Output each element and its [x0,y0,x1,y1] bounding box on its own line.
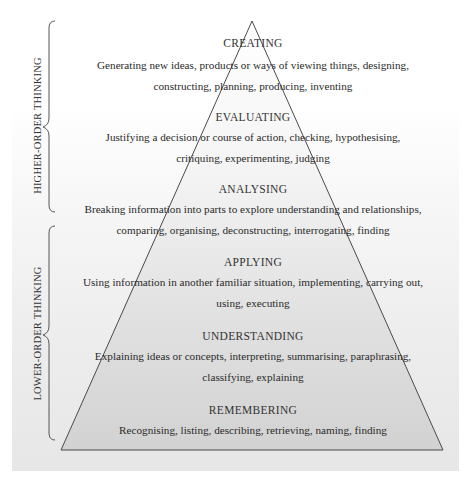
higher-order-brace-icon [43,21,55,212]
level-title: CREATING [60,36,446,50]
level-description: Breaking information into parts to explo… [60,199,446,240]
bloom-taxonomy-diagram: HIGHER-ORDER THINKING LOWER-ORDER THINKI… [0,0,470,488]
description-line: comparing, organising, deconstructing, i… [60,220,446,241]
level-analysing: ANALYSING Breaking information into part… [60,182,446,240]
level-applying: APPLYING Using information in another fa… [60,255,446,313]
description-line: using, executing [60,293,446,314]
level-title: EVALUATING [60,110,446,124]
higher-order-thinking-label: HIGHER-ORDER THINKING [32,56,43,196]
level-title: ANALYSING [60,182,446,196]
level-description: Generating new ideas, products or ways o… [60,55,446,96]
description-line: Breaking information into parts to explo… [60,199,446,220]
level-description: Justifying a decision or course of actio… [60,127,446,168]
description-line: Generating new ideas, products or ways o… [60,55,446,76]
level-description: Recognising, listing, describing, retrie… [60,420,446,441]
description-line: Using information in another familiar si… [60,272,446,293]
lower-order-brace-icon [43,226,55,440]
level-description: Explaining ideas or concepts, interpreti… [60,346,446,387]
level-description: Using information in another familiar si… [60,272,446,313]
level-understanding: UNDERSTANDING Explaining ideas or concep… [60,329,446,387]
description-line: Explaining ideas or concepts, interpreti… [60,346,446,367]
description-line: constructing, planning, producing, inven… [60,76,446,97]
level-title: UNDERSTANDING [60,329,446,343]
description-line: Justifying a decision or course of actio… [60,127,446,148]
description-line: critiquing, experimenting, judging [60,148,446,169]
level-title: APPLYING [60,255,446,269]
level-title: REMEMBERING [60,403,446,417]
description-line: Recognising, listing, describing, retrie… [60,420,446,441]
level-evaluating: EVALUATING Justifying a decision or cour… [60,110,446,168]
description-line: classifying, explaining [60,367,446,388]
level-remembering: REMEMBERING Recognising, listing, descri… [60,403,446,441]
lower-order-thinking-label: LOWER-ORDER THINKING [32,264,43,404]
level-creating: CREATING Generating new ideas, products … [60,36,446,96]
